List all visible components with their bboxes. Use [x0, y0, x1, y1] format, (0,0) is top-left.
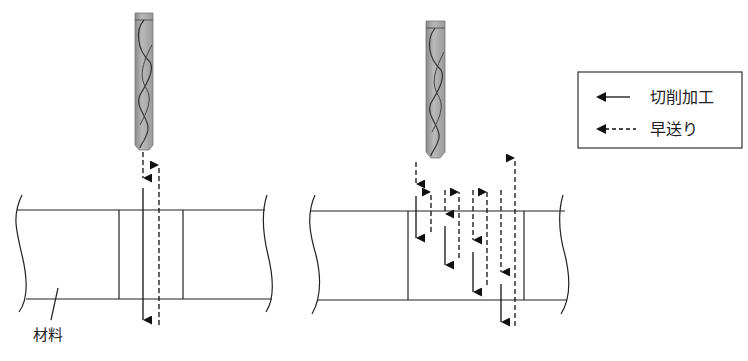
end-mill-icon	[426, 21, 445, 158]
material-label: 材料	[33, 326, 63, 344]
legend-label-cutting: 切削加工	[650, 88, 714, 107]
machining-diagram: 材料	[0, 0, 748, 361]
legend-label-rapid: 早送り	[650, 120, 698, 139]
right-toolpath	[416, 158, 515, 326]
legend: 切削加工 早送り	[578, 72, 742, 148]
end-mill-icon	[135, 13, 153, 150]
material-left	[16, 195, 272, 320]
material-right	[310, 195, 569, 314]
